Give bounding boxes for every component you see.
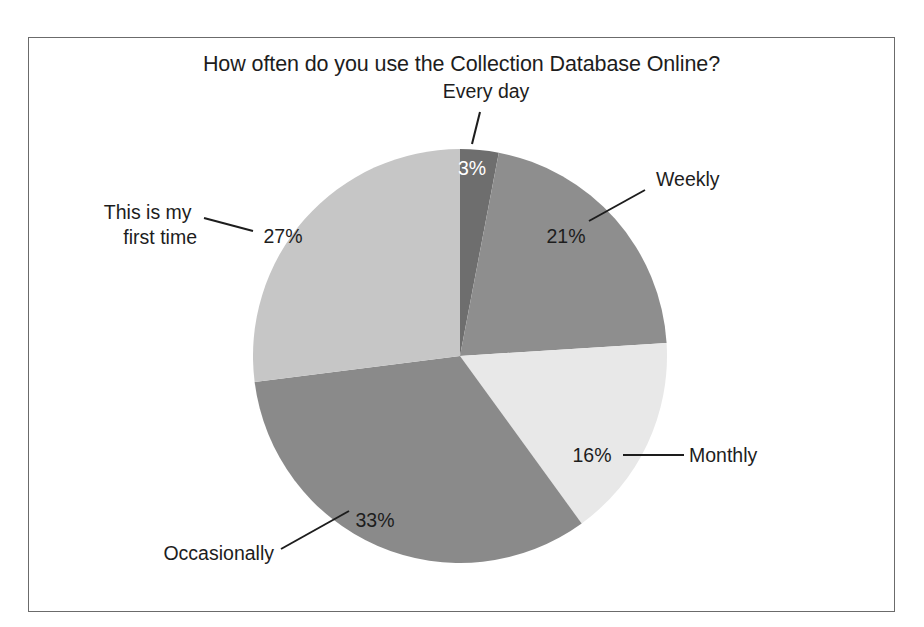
pie-category-label-every-day: Every day bbox=[443, 80, 530, 102]
pie-chart-svg: 3% 21% 16% 33% 27% Every day Weekly Mont… bbox=[29, 38, 896, 613]
pie-category-label-first-time-line1: This is my bbox=[104, 201, 192, 223]
chart-figure-frame: How often do you use the Collection Data… bbox=[28, 37, 895, 612]
leader-line-every-day bbox=[472, 112, 480, 144]
pie-category-label-monthly: Monthly bbox=[689, 444, 758, 466]
leader-line-first-time bbox=[204, 218, 253, 231]
pie-chart-area: 3% 21% 16% 33% 27% Every day Weekly Mont… bbox=[29, 38, 896, 613]
pie-category-label-first-time: This is my first time bbox=[104, 201, 197, 248]
pie-category-label-first-time-line2: first time bbox=[123, 226, 197, 248]
pie-value-label-monthly: 16% bbox=[572, 444, 611, 466]
leader-line-occasionally bbox=[281, 511, 349, 549]
pie-value-label-every-day: 3% bbox=[458, 157, 486, 179]
pie-category-label-weekly: Weekly bbox=[656, 168, 720, 190]
pie-value-label-occasionally: 33% bbox=[355, 509, 394, 531]
pie-category-label-occasionally: Occasionally bbox=[163, 542, 274, 564]
pie-slice-first-time[interactable] bbox=[253, 149, 460, 382]
pie-value-label-weekly: 21% bbox=[546, 225, 585, 247]
pie-value-label-first-time: 27% bbox=[263, 225, 302, 247]
